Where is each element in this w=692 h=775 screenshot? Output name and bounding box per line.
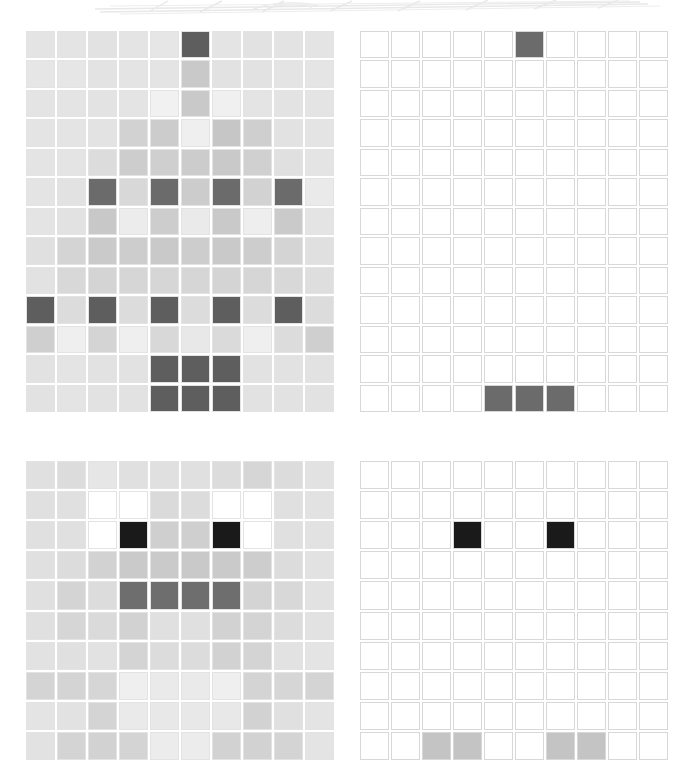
heatmap-cell [212, 296, 241, 323]
heatmap-cell [119, 702, 148, 730]
heatmap-cell [546, 90, 575, 117]
heatmap-cell [639, 581, 668, 609]
heatmap-cell [639, 60, 668, 87]
heatmap-cell [453, 612, 482, 640]
heatmap-cell [57, 355, 86, 382]
heatmap-cell [212, 31, 241, 58]
heatmap-cell [26, 491, 55, 519]
heatmap-cell [181, 267, 210, 294]
decorative-banner-strip [0, 0, 692, 16]
heatmap-cell [453, 149, 482, 176]
heatmap-cell [515, 31, 544, 58]
heatmap-cell [577, 31, 606, 58]
heatmap-cell [243, 267, 272, 294]
heatmap-cell [26, 672, 55, 700]
heatmap-cell [212, 90, 241, 117]
heatmap-cell [639, 672, 668, 700]
heatmap-cell [391, 612, 420, 640]
heatmap-cell [360, 267, 389, 294]
heatmap-cell [422, 702, 451, 730]
heatmap-cell [577, 208, 606, 235]
heatmap-cell [119, 267, 148, 294]
heatmap-cell [577, 702, 606, 730]
heatmap-cell [243, 326, 272, 353]
heatmap-cell [150, 521, 179, 549]
heatmap-cell [212, 119, 241, 146]
heatmap-cell [119, 119, 148, 146]
heatmap-cell [274, 149, 303, 176]
heatmap-cell [243, 296, 272, 323]
heatmap-panel-bottom-left[interactable] [26, 461, 334, 760]
heatmap-cell [546, 702, 575, 730]
heatmap-cell [484, 60, 513, 87]
heatmap-cell [181, 491, 210, 519]
heatmap-cell [360, 612, 389, 640]
heatmap-cell [360, 31, 389, 58]
heatmap-cell [484, 149, 513, 176]
heatmap-cell [305, 31, 334, 58]
heatmap-cell [391, 551, 420, 579]
heatmap-cell [391, 178, 420, 205]
heatmap-cell [453, 491, 482, 519]
heatmap-cell [577, 732, 606, 760]
heatmap-cell [305, 90, 334, 117]
heatmap-cell [119, 491, 148, 519]
heatmap-cell [422, 612, 451, 640]
heatmap-cell [26, 119, 55, 146]
heatmap-cell [360, 178, 389, 205]
heatmap-cell [515, 642, 544, 670]
heatmap-cell [212, 521, 241, 549]
heatmap-cell [305, 267, 334, 294]
heatmap-cell [57, 385, 86, 412]
heatmap-cell [608, 672, 637, 700]
heatmap-cell [360, 90, 389, 117]
heatmap-cell [577, 551, 606, 579]
heatmap-cell [274, 461, 303, 489]
heatmap-cell [453, 178, 482, 205]
heatmap-cell [305, 702, 334, 730]
heatmap-cell [274, 732, 303, 760]
heatmap-cell [119, 672, 148, 700]
heatmap-cell [484, 119, 513, 146]
heatmap-cell [57, 60, 86, 87]
heatmap-cell [212, 581, 241, 609]
heatmap-cell [57, 461, 86, 489]
heatmap-cell [212, 60, 241, 87]
heatmap-cell [274, 551, 303, 579]
heatmap-cell [150, 612, 179, 640]
heatmap-cell [57, 551, 86, 579]
heatmap-panel-top-right[interactable] [360, 31, 668, 412]
heatmap-cell [453, 642, 482, 670]
heatmap-cell [305, 461, 334, 489]
heatmap-cell [391, 642, 420, 670]
heatmap-cell [422, 60, 451, 87]
heatmap-cell [150, 385, 179, 412]
heatmap-cell [88, 672, 117, 700]
heatmap-cell [577, 461, 606, 489]
heatmap-cell [119, 149, 148, 176]
heatmap-cell [391, 267, 420, 294]
heatmap-cell [88, 90, 117, 117]
heatmap-cell [453, 296, 482, 323]
heatmap-cell [639, 521, 668, 549]
heatmap-cell [422, 642, 451, 670]
heatmap-cell [360, 581, 389, 609]
heatmap-cell [243, 732, 272, 760]
heatmap-cell [608, 31, 637, 58]
heatmap-cell [119, 237, 148, 264]
heatmap-cell [484, 326, 513, 353]
heatmap-cell [639, 178, 668, 205]
heatmap-cell [26, 296, 55, 323]
heatmap-cell [119, 521, 148, 549]
heatmap-cell [26, 581, 55, 609]
heatmap-cell [243, 612, 272, 640]
heatmap-cell [305, 521, 334, 549]
heatmap-cell [453, 355, 482, 382]
heatmap-cell [360, 642, 389, 670]
heatmap-cell [608, 581, 637, 609]
heatmap-panel-top-left[interactable] [26, 31, 334, 412]
heatmap-cell [422, 672, 451, 700]
heatmap-cell [453, 119, 482, 146]
heatmap-cell [360, 60, 389, 87]
heatmap-panel-bottom-right[interactable] [360, 461, 668, 760]
